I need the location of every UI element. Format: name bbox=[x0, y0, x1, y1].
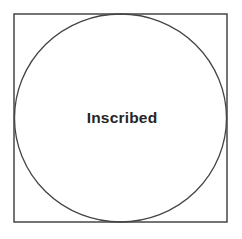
geometry-figure-canvas: Inscribed bbox=[0, 0, 242, 239]
inscribed-label: Inscribed bbox=[1, 109, 242, 127]
